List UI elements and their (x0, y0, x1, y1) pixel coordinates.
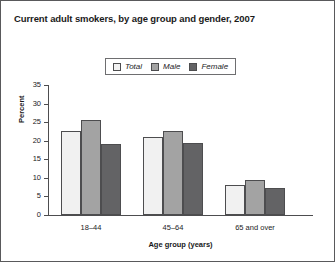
legend-label-male: Male (163, 62, 180, 71)
y-tick: 25 (44, 122, 48, 123)
y-axis-label: Percent (17, 95, 26, 123)
legend-swatch-total (113, 63, 121, 71)
bar-total-group-1 (61, 131, 81, 215)
legend-swatch-female (189, 63, 197, 71)
bar-total-group-2 (143, 137, 163, 215)
y-tick: 0 (44, 215, 48, 216)
y-tick: 15 (44, 159, 48, 160)
bar-female-group-1 (101, 144, 121, 215)
x-axis-label: Age group (years) (48, 240, 313, 249)
x-axis-line (48, 215, 313, 216)
y-axis-line (48, 85, 49, 215)
legend-entry-female: Female (189, 62, 228, 71)
chart-legend: Total Male Female (105, 58, 236, 75)
y-tick-label: 20 (33, 136, 41, 145)
bar-female-group-2 (183, 143, 203, 215)
chart-title: Current adult smokers, by age group and … (14, 13, 314, 24)
legend-entry-total: Total (113, 62, 142, 71)
bar-total-group-3 (225, 185, 245, 215)
y-tick: 10 (44, 178, 48, 179)
bar-female-group-3 (265, 188, 285, 215)
plot-area: 05101520253035 18–4445–6465 and over Age… (48, 85, 313, 215)
chart-figure: Current adult smokers, by age group and … (0, 0, 335, 262)
bar-male-group-2 (163, 131, 183, 215)
y-tick-label: 0 (37, 210, 41, 219)
y-tick-label: 35 (33, 80, 41, 89)
bar-male-group-1 (81, 120, 101, 215)
legend-swatch-male (151, 63, 159, 71)
y-tick: 5 (44, 196, 48, 197)
bar-male-group-3 (245, 180, 265, 215)
legend-label-total: Total (125, 62, 142, 71)
y-tick-label: 25 (33, 117, 41, 126)
y-tick: 20 (44, 141, 48, 142)
y-tick-label: 5 (37, 191, 41, 200)
legend-label-female: Female (201, 62, 228, 71)
y-tick-label: 15 (33, 154, 41, 163)
y-tick: 30 (44, 104, 48, 105)
legend-entry-male: Male (151, 62, 180, 71)
y-tick-label: 10 (33, 173, 41, 182)
x-tick-label: 65 and over (205, 223, 305, 232)
y-tick: 35 (44, 85, 48, 86)
y-tick-label: 30 (33, 99, 41, 108)
